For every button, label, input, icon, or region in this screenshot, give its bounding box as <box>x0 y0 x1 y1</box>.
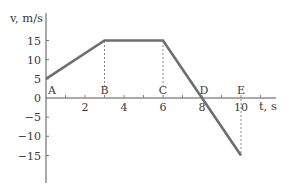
x-tick-label: 8 <box>199 101 206 114</box>
x-tick-label: 10 <box>234 101 248 114</box>
x-tick-label: 4 <box>121 101 128 114</box>
point-label-a: A <box>47 84 57 97</box>
y-axis-label: v, m/s <box>9 11 43 25</box>
point-label-b: B <box>100 84 108 97</box>
y-tick-label: 0 <box>34 92 41 105</box>
point-label-d: D <box>200 84 209 97</box>
point-label-e: E <box>237 84 245 97</box>
point-label-c: C <box>159 84 167 97</box>
y-tick-label: 10 <box>27 54 41 67</box>
velocity-time-chart: v, m/s t, s 15 10 5 0 −5 −10 −15 2 4 6 8… <box>0 0 290 191</box>
x-tick-label: 6 <box>160 101 167 114</box>
y-tick-label: −5 <box>25 111 41 124</box>
y-tick-labels: 15 10 5 0 −5 −10 −15 <box>18 35 41 163</box>
x-tick-labels: 2 4 6 8 10 <box>82 101 249 114</box>
x-axis-label: t, s <box>259 99 277 113</box>
y-tick-label: −10 <box>18 130 41 143</box>
y-tick-label: 5 <box>34 73 41 86</box>
x-tick-label: 2 <box>82 101 89 114</box>
point-labels: A B C D E <box>47 84 245 97</box>
y-tick-label: 15 <box>27 35 41 48</box>
y-tick-label: −15 <box>18 150 41 163</box>
